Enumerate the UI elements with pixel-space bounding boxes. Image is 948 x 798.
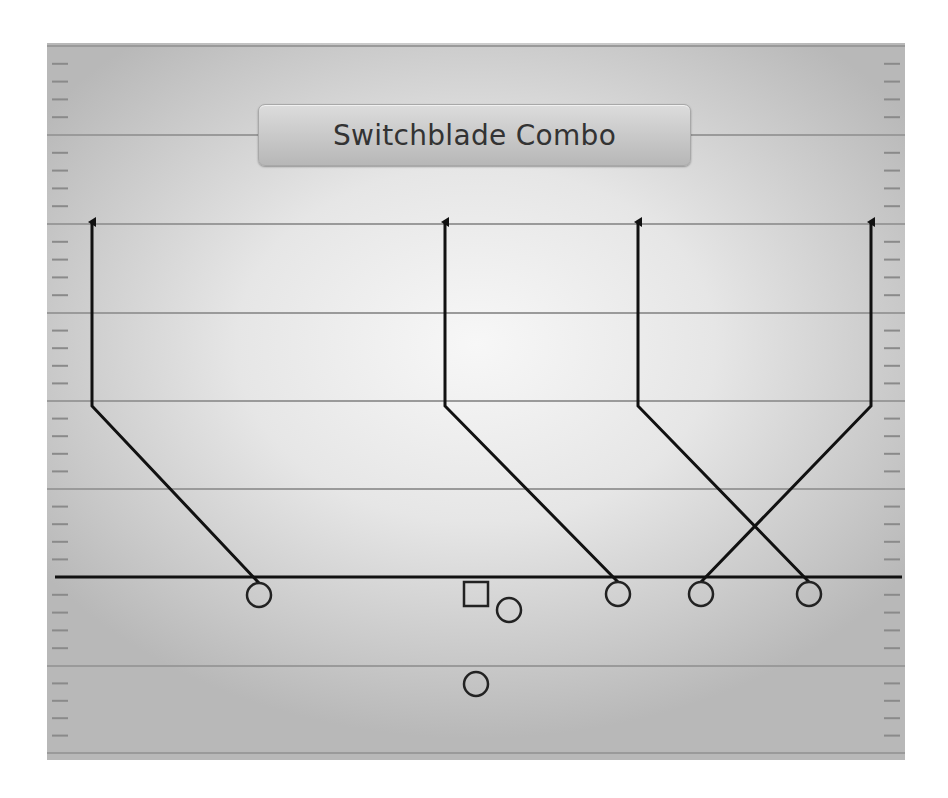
players <box>247 582 821 696</box>
routes <box>92 222 871 583</box>
play-title: Switchblade Combo <box>333 119 616 152</box>
route-receiver-1 <box>92 222 259 583</box>
center-square <box>464 582 488 606</box>
receiver-4-circle <box>797 582 821 606</box>
receiver-2-circle <box>606 582 630 606</box>
receiver-1-circle <box>247 583 271 607</box>
play-title-box: Switchblade Combo <box>258 104 691 166</box>
quarterback-circle <box>464 672 488 696</box>
receiver-3-circle <box>689 582 713 606</box>
running-back-circle <box>497 598 521 622</box>
